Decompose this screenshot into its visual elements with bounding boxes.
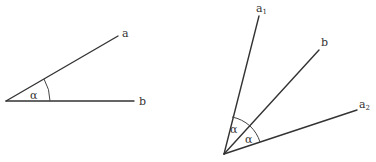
label-a2: a2 (359, 98, 370, 112)
left-angle-figure: α a b (6, 27, 146, 108)
label-a: a (122, 27, 129, 40)
label-a1: a1 (256, 2, 267, 16)
angle-label-alpha-upper: α (230, 123, 238, 136)
angle-label-alpha-lower: α (245, 133, 253, 146)
label-b: b (321, 36, 328, 49)
angle-diagram: α a b α α a1 b a2 (0, 0, 376, 162)
right-angle-figure: α α a1 b a2 (224, 2, 370, 154)
ray-a (6, 36, 118, 101)
label-b: b (139, 95, 146, 108)
angle-label-alpha: α (30, 89, 38, 102)
angle-arc (44, 79, 50, 101)
